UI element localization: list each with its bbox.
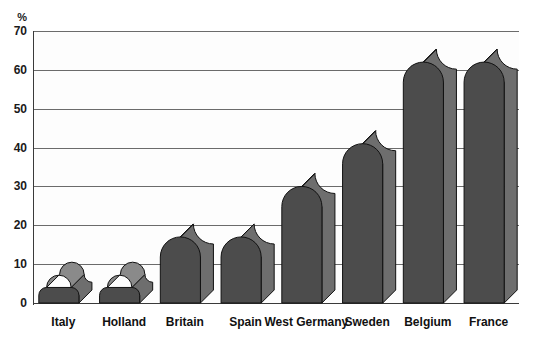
bar-front-face [221, 237, 261, 303]
bar-group-sweden [343, 131, 396, 303]
bar-front-face [343, 144, 383, 303]
category-label-holland: Holland [102, 315, 146, 329]
category-label-britain: Britain [166, 315, 204, 329]
category-label-west-germany: West Germany [264, 315, 348, 329]
y-axis-tick-label-0: 0 [20, 296, 27, 310]
category-label-france: France [469, 315, 509, 329]
y-axis-tick-label-40: 40 [14, 141, 28, 155]
y-axis-unit-label: % [17, 11, 27, 23]
bar-group-belgium [403, 49, 456, 303]
bar-front-face [464, 62, 504, 303]
bar-front-face [282, 186, 322, 303]
category-label-sweden: Sweden [344, 315, 389, 329]
y-axis-tick-label-10: 10 [14, 257, 28, 271]
bar-group-west-germany [282, 173, 335, 303]
category-label-spain: Spain [229, 315, 262, 329]
y-axis-tick-label-20: 20 [14, 218, 28, 232]
bar-front-face [160, 237, 200, 303]
category-label-italy: Italy [51, 315, 75, 329]
y-axis-tick-label-60: 60 [14, 63, 28, 77]
bar-front-face [39, 287, 79, 303]
category-label-belgium: Belgium [404, 315, 451, 329]
bar-chart-figure: 010203040506070%ItalyHollandBritainSpain… [0, 0, 545, 340]
y-axis-tick-label-50: 50 [14, 102, 28, 116]
bar-front-face [403, 62, 443, 303]
y-axis-tick-label-30: 30 [14, 179, 28, 193]
y-axis-tick-label-70: 70 [14, 24, 28, 38]
bar-group-france [464, 49, 517, 303]
bar-front-face [100, 287, 140, 303]
chart-canvas: 010203040506070%ItalyHollandBritainSpain… [0, 0, 545, 340]
